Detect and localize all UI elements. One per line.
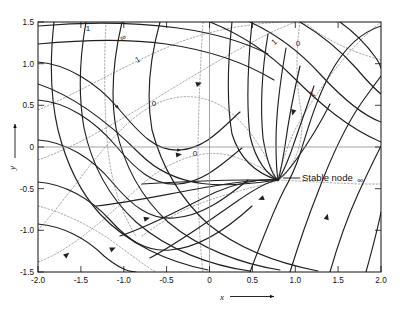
x-tick-label: 2.0 <box>375 276 387 285</box>
figure-background <box>0 0 405 322</box>
y-tick-label: -1.0 <box>20 226 35 235</box>
x-tick-label: 1.5 <box>332 276 344 285</box>
y-tick-label: -1.5 <box>20 268 35 277</box>
phase-portrait-figure: -2.0 -1.5 -1.0 -0.5 0 0.5 1.0 1.5 2.0 -1… <box>0 0 405 322</box>
isocline-label: ∞ <box>357 176 363 185</box>
x-tick-label: 0 <box>207 276 212 285</box>
x-tick-label: -0.5 <box>160 276 175 285</box>
x-axis-label: x <box>219 292 224 302</box>
isocline-label: 0 <box>152 99 157 108</box>
x-tick-label: 1.0 <box>290 276 302 285</box>
y-tick-label: 0 <box>29 143 34 152</box>
x-tick-label: 0.5 <box>247 276 259 285</box>
x-tick-label: -2.0 <box>31 276 46 285</box>
y-tick-label: 0.5 <box>23 101 35 110</box>
y-tick-label: -0.5 <box>20 185 35 194</box>
isocline-label: 1 <box>86 24 91 33</box>
x-tick-label: -1.0 <box>117 276 132 285</box>
isocline-label: 0 <box>193 149 198 158</box>
x-tick-label: -1.5 <box>74 276 89 285</box>
x-tick-labels: -2.0 -1.5 -1.0 -0.5 0 0.5 1.0 1.5 2.0 <box>31 276 387 285</box>
y-axis-label: y <box>7 166 17 171</box>
y-tick-label: 1.0 <box>23 60 35 69</box>
y-tick-label: 1.5 <box>23 18 35 27</box>
stable-node-label: Stable node <box>302 172 353 183</box>
phase-plane-svg: -2.0 -1.5 -1.0 -0.5 0 0.5 1.0 1.5 2.0 -1… <box>0 0 405 322</box>
isocline-label: 0 <box>296 39 301 48</box>
